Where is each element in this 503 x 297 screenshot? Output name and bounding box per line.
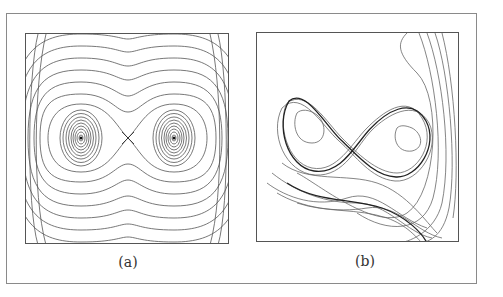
caption-a: (a) — [108, 254, 148, 270]
phase-portrait-plot — [26, 34, 229, 244]
chaotic-trajectory-plot — [257, 33, 459, 242]
panel-b-chaotic-trajectories — [256, 32, 459, 242]
caption-b: (b) — [345, 253, 385, 269]
panel-a-phase-portrait — [25, 33, 229, 244]
